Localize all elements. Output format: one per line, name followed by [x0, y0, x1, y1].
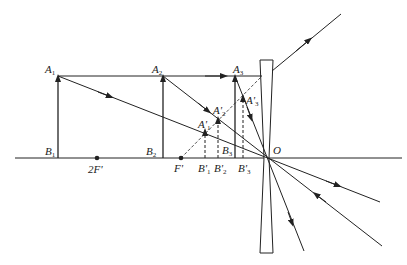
label-A2prime: A'2	[212, 104, 226, 118]
label-A3: A3	[232, 63, 244, 77]
label-B3prime: B'3	[238, 162, 251, 176]
label-A1prime: A'1	[197, 118, 211, 132]
label-A3prime: A'3	[245, 94, 259, 108]
optics-diagram: A1 A2 A3 B1 B2 B3 A'1 A'2 A'3 B'1 B'2 B'…	[0, 0, 407, 265]
point-2F	[95, 156, 100, 161]
label-A2: A2	[151, 63, 163, 77]
central-ray-2	[163, 76, 382, 246]
label-2F: 2F'	[88, 163, 103, 175]
label-B1: B1	[45, 145, 56, 159]
label-O: O	[273, 144, 281, 156]
central-ray-1-arrow-b	[326, 181, 338, 186]
label-B2prime: B'2	[214, 162, 227, 176]
label-B2: B2	[146, 145, 157, 159]
refracted-ray-arrow	[296, 40, 309, 51]
central-ray-2-arrow-b	[316, 195, 326, 203]
label-B1prime: B'1	[198, 162, 211, 176]
label-F: F'	[173, 162, 184, 174]
label-B3: B3	[222, 144, 233, 158]
central-ray-3-arrow-b	[288, 212, 292, 223]
central-ray-2-arrow-a	[198, 103, 208, 111]
central-ray-3-arrow-a	[247, 107, 251, 118]
point-F	[179, 156, 184, 161]
label-A1: A1	[44, 63, 56, 77]
central-ray-1-arrow-a	[98, 92, 110, 97]
